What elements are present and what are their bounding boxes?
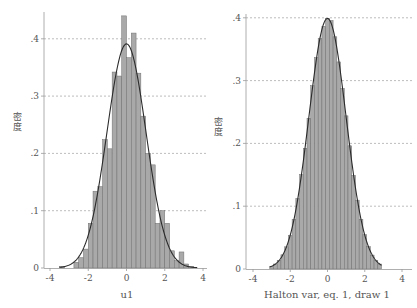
histogram-bar: [141, 116, 146, 268]
x-tick-label: -4: [46, 273, 55, 283]
histogram-bar: [146, 153, 151, 268]
y-tick-label: .3: [30, 91, 39, 101]
x-tick-label: 0: [124, 273, 130, 283]
histogram-bar: [307, 118, 311, 269]
histogram-bar: [127, 58, 132, 268]
right-x-axis-label: Halton var, eq. 1, draw 1: [264, 289, 390, 300]
histogram-bar: [122, 16, 127, 268]
left-histogram-plot: 0.1.2.3.4-4-2024: [0, 0, 210, 308]
histogram-bar: [300, 175, 304, 269]
x-tick-label: -2: [286, 274, 295, 284]
histogram-bar: [74, 262, 79, 268]
histogram-bar: [107, 149, 112, 268]
right-histogram-plot: 0.1.2.3.4-4-2024: [205, 0, 417, 308]
histogram-bar: [79, 258, 84, 268]
histogram-bar: [136, 73, 141, 268]
y-tick-label: 0: [235, 264, 241, 274]
histogram-bar: [337, 62, 341, 269]
y-tick-label: .2: [30, 148, 39, 158]
histogram-bar: [326, 18, 330, 269]
histogram-bar: [329, 21, 333, 269]
histogram-bar: [303, 148, 307, 269]
histogram-bar: [341, 88, 345, 269]
histogram-bar: [314, 58, 318, 269]
histogram-bar: [179, 252, 184, 268]
y-tick-label: .4: [30, 34, 39, 44]
x-tick-label: 2: [362, 274, 368, 284]
histogram-bar: [98, 187, 103, 268]
x-tick-label: -2: [84, 273, 93, 283]
histogram-bar: [348, 146, 352, 269]
y-tick-label: .1: [232, 201, 241, 211]
histogram-bar: [322, 26, 326, 269]
y-tick-label: .1: [30, 206, 39, 216]
x-tick-label: 4: [399, 274, 405, 284]
right-histogram-panel: 0.1.2.3.4-4-2024 密度 Halton var, eq. 1, d…: [205, 0, 417, 308]
histogram-bar: [318, 39, 322, 269]
histogram-bar: [352, 175, 356, 269]
left-y-axis-label: 密度: [12, 112, 22, 132]
histogram-bar: [344, 116, 348, 269]
x-tick-label: 0: [325, 274, 331, 284]
y-tick-label: 0: [33, 263, 39, 273]
y-tick-label: .4: [232, 13, 241, 23]
right-y-axis-label: 密度: [213, 117, 223, 137]
histogram-bar: [117, 76, 122, 268]
left-histogram-panel: 0.1.2.3.4-4-2024 密度 u1: [0, 0, 210, 308]
histogram-bar: [355, 200, 359, 269]
y-tick-label: .3: [232, 76, 241, 86]
histogram-bar: [333, 37, 337, 269]
histogram-bar: [155, 223, 160, 268]
histogram-bar: [88, 223, 93, 268]
histogram-bar: [83, 249, 88, 268]
histogram-bar: [112, 72, 117, 268]
left-x-axis-label: u1: [121, 289, 134, 300]
histogram-bar: [311, 86, 315, 269]
x-tick-label: -4: [249, 274, 258, 284]
y-tick-label: .2: [232, 138, 241, 148]
x-tick-label: 2: [162, 273, 168, 283]
